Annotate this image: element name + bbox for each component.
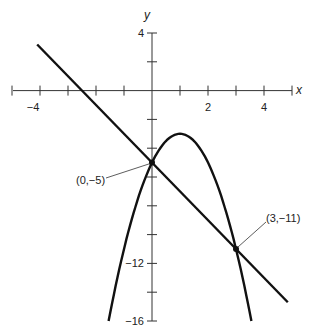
line-series	[37, 45, 288, 303]
x-tick-label: 4	[261, 101, 267, 113]
x-axis-label: x	[295, 83, 303, 97]
axes	[12, 33, 292, 321]
y-tick-label: −16	[125, 315, 144, 327]
parabola-series	[109, 134, 252, 321]
x-tick-label: −4	[27, 101, 40, 113]
intersection-point-2	[233, 246, 239, 252]
y-tick-label: −12	[125, 257, 144, 269]
y-axis-label: y	[143, 8, 151, 22]
annotation-leaders	[106, 164, 266, 247]
intersection-point-1	[149, 160, 155, 166]
y-tick-label: 4	[138, 27, 144, 39]
chart: x y −4 2 4 4 −12 −16 (0,−5) (3,−11)	[0, 0, 319, 336]
annotation-label-2: (3,−11)	[266, 212, 300, 224]
x-tick-label: 2	[205, 101, 211, 113]
annotation-label-1: (0,−5)	[76, 174, 105, 186]
